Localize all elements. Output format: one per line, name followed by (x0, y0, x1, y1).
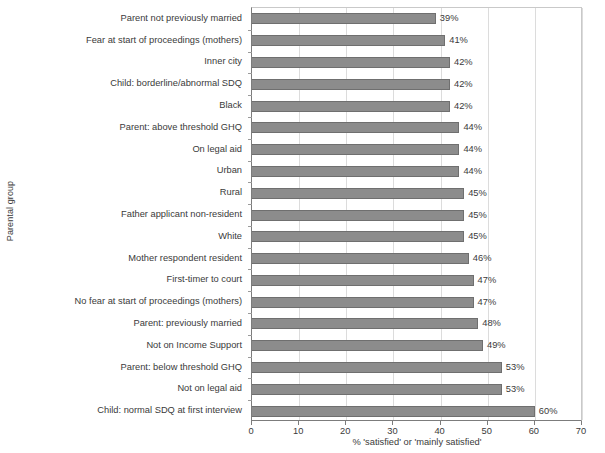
y-axis-tick (248, 139, 252, 140)
x-axis-tick (345, 421, 346, 425)
y-axis-tick (248, 30, 252, 31)
category-label: Parent: below threshold GHQ (16, 362, 242, 372)
bar-value-label: 39% (440, 13, 459, 24)
x-axis-tick-label: 20 (340, 426, 350, 436)
bar-value-label: 44% (463, 122, 482, 133)
bar-value-label: 41% (449, 35, 468, 46)
category-label: Parent not previously married (16, 13, 242, 23)
category-label: Parent: above threshold GHQ (16, 122, 242, 132)
bar-value-label: 42% (454, 79, 473, 90)
bar (252, 210, 464, 221)
y-axis-tick (248, 182, 252, 183)
bar (252, 166, 459, 177)
bar (252, 122, 459, 133)
category-label: No fear at start of proceedings (mothers… (16, 296, 242, 306)
bar (252, 362, 502, 373)
bar (252, 13, 436, 24)
bar-value-label: 45% (468, 210, 487, 221)
x-axis-tick (440, 421, 441, 425)
x-axis-tick (581, 421, 582, 425)
bar-value-label: 44% (463, 144, 482, 155)
bar-value-label: 47% (478, 275, 497, 286)
bar-value-label: 53% (506, 362, 525, 373)
bar (252, 340, 483, 351)
category-label: Not on legal aid (16, 383, 242, 393)
gridline (582, 8, 583, 420)
category-label: Child: normal SDQ at first interview (16, 405, 242, 415)
y-axis-tick (248, 95, 252, 96)
category-label: Parent: previously married (16, 318, 242, 328)
x-axis-tick (251, 421, 252, 425)
bar (252, 318, 478, 329)
bar-value-label: 42% (454, 57, 473, 68)
y-axis-tick (248, 161, 252, 162)
category-label: White (16, 231, 242, 241)
x-axis-label: % 'satisfied' or 'mainly satisfied' (251, 437, 583, 447)
bar (252, 297, 474, 308)
bar-value-label: 47% (478, 297, 497, 308)
category-label: Mother respondent resident (16, 253, 242, 263)
plot-area: 39%41%42%42%42%44%44%44%45%45%45%46%47%4… (251, 7, 582, 421)
bar-value-label: 53% (506, 384, 525, 395)
y-axis-tick (248, 357, 252, 358)
x-axis-tick (298, 421, 299, 425)
category-label: Black (16, 100, 242, 110)
bar-value-label: 48% (482, 318, 501, 329)
category-label: Fear at start of proceedings (mothers) (16, 35, 242, 45)
x-axis-tick-label: 50 (482, 426, 492, 436)
y-axis-tick (248, 269, 252, 270)
y-axis-tick (248, 117, 252, 118)
y-axis-tick (248, 204, 252, 205)
y-axis-tick (248, 313, 252, 314)
bar-value-label: 45% (468, 231, 487, 242)
bar (252, 101, 450, 112)
bar-value-label: 60% (539, 406, 558, 417)
y-axis-tick (248, 52, 252, 53)
bar-value-label: 46% (473, 253, 492, 264)
bar (252, 253, 469, 264)
x-axis-tick-label: 10 (293, 426, 303, 436)
bar-value-label: 45% (468, 188, 487, 199)
bar-value-label: 42% (454, 101, 473, 112)
category-label: Not on Income Support (16, 340, 242, 350)
bar (252, 188, 464, 199)
category-label: Inner city (16, 56, 242, 66)
x-axis-tick-label: 60 (529, 426, 539, 436)
x-axis-tick (392, 421, 393, 425)
bar (252, 79, 450, 90)
y-axis-tick (248, 335, 252, 336)
bar-value-label: 49% (487, 340, 506, 351)
y-axis-tick (248, 378, 252, 379)
y-axis-tick (248, 226, 252, 227)
x-axis-tick (534, 421, 535, 425)
category-label: Child: borderline/abnormal SDQ (16, 78, 242, 88)
x-axis-tick-label: 30 (387, 426, 397, 436)
x-axis-tick-label: 40 (434, 426, 444, 436)
chart-container: Parental group Parent not previously mar… (0, 0, 605, 453)
y-axis-tick (248, 248, 252, 249)
bar (252, 35, 445, 46)
bar (252, 406, 535, 417)
chart-title-cropped (0, 0, 605, 7)
category-label-list: Parent not previously marriedFear at sta… (18, 7, 247, 421)
x-axis-tick (487, 421, 488, 425)
category-label: First-timer to court (16, 274, 242, 284)
bar (252, 275, 474, 286)
bar-value-label: 44% (463, 166, 482, 177)
y-axis-tick (248, 73, 252, 74)
category-label: Urban (16, 165, 242, 175)
bar (252, 231, 464, 242)
gridline (488, 8, 489, 420)
y-axis-tick (248, 291, 252, 292)
category-label: Rural (16, 187, 242, 197)
y-axis-tick (248, 400, 252, 401)
x-axis-tick-label: 0 (248, 426, 253, 436)
y-axis-label-text: Parental group (5, 180, 15, 240)
bar (252, 144, 459, 155)
gridline (535, 8, 536, 420)
x-axis-tick-label: 70 (576, 426, 586, 436)
bar (252, 57, 450, 68)
category-label: Father applicant non-resident (16, 209, 242, 219)
bar (252, 384, 502, 395)
category-label: On legal aid (16, 144, 242, 154)
